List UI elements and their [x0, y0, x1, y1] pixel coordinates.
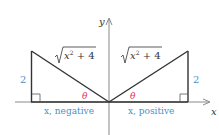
right-right-angle-marker	[180, 94, 188, 102]
right-triangle: 2 θ x, positive x2 + 4	[109, 47, 199, 116]
x-axis-label: x	[211, 106, 217, 117]
left-hyp-rest: + 4	[73, 50, 94, 61]
right-leg-label: 2	[193, 74, 199, 85]
y-axis-label: y	[98, 16, 105, 27]
right-hyp-rest: + 4	[139, 50, 160, 61]
right-hyp-text: x2 + 4	[130, 49, 161, 61]
left-hypotenuse	[32, 51, 110, 102]
axes: x y	[15, 16, 217, 135]
left-angle-label: θ	[82, 91, 88, 101]
left-leg-label: 2	[20, 74, 26, 85]
left-base-label: x, negative	[44, 106, 94, 116]
reference-triangle-diagram: x y 2 θ x, negative x2 + 4 2 θ x, positi…	[0, 0, 219, 135]
left-right-angle-marker	[32, 94, 40, 102]
left-triangle: 2 θ x, negative x2 + 4	[20, 47, 109, 116]
right-base-label: x, positive	[128, 106, 174, 116]
right-hypotenuse-label: x2 + 4	[121, 47, 162, 63]
left-hypotenuse-label: x2 + 4	[55, 47, 96, 63]
right-angle-label: θ	[130, 91, 136, 101]
left-hyp-text: x2 + 4	[64, 49, 95, 61]
